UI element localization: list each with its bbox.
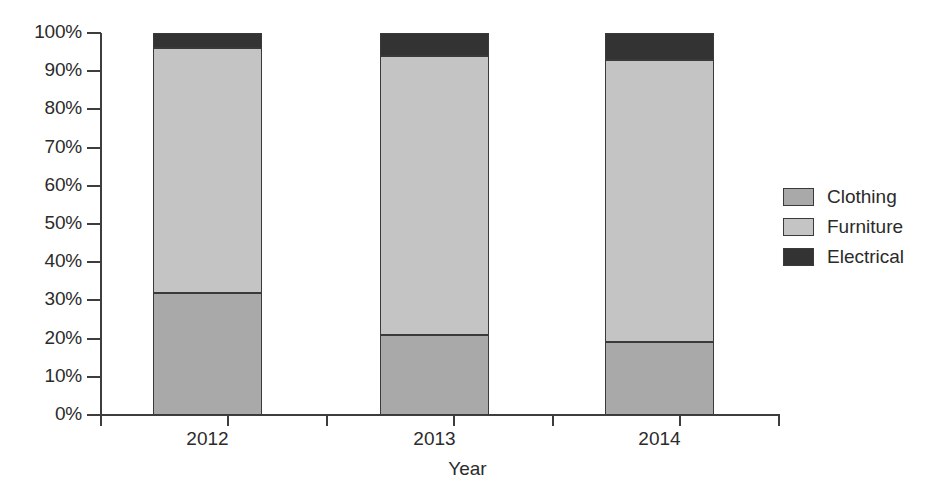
y-axis-tick (87, 338, 101, 340)
y-axis-tick (87, 185, 101, 187)
x-axis-title: Year (0, 458, 935, 480)
y-axis-tick (87, 32, 101, 34)
y-axis-tick (87, 299, 101, 301)
y-axis-tick (87, 414, 101, 416)
x-axis-category-label: 2013 (413, 428, 455, 450)
y-axis-tick-label: 0% (0, 403, 82, 425)
legend-label: Electrical (827, 246, 904, 268)
bar-segment-electrical[interactable] (153, 33, 262, 48)
y-axis-tick (87, 147, 101, 149)
bar-segment-electrical[interactable] (380, 33, 489, 56)
x-axis-tick (778, 414, 780, 426)
bar-segment-clothing[interactable] (153, 293, 262, 415)
y-axis-tick (87, 108, 101, 110)
y-axis-tick-label: 10% (0, 365, 82, 387)
legend-swatch (783, 218, 814, 236)
plot-area (100, 33, 778, 415)
bar-group (380, 33, 489, 415)
y-axis-tick (87, 261, 101, 263)
legend-item[interactable]: Clothing (783, 182, 904, 212)
x-axis-tick (552, 414, 554, 426)
y-axis-tick-label: 40% (0, 250, 82, 272)
y-axis-tick (87, 376, 101, 378)
y-axis-tick-label: 50% (0, 212, 82, 234)
bar-segment-furniture[interactable] (153, 48, 262, 292)
y-axis-tick-label: 70% (0, 136, 82, 158)
bar-segment-clothing[interactable] (380, 335, 489, 415)
legend-label: Furniture (827, 216, 903, 238)
y-axis-tick-label: 60% (0, 174, 82, 196)
x-axis-category-label: 2012 (186, 428, 228, 450)
x-axis-tick (453, 414, 455, 426)
bar-segment-clothing[interactable] (605, 342, 714, 415)
y-axis-tick (87, 223, 101, 225)
x-axis-tick (326, 414, 328, 426)
legend-item[interactable]: Electrical (783, 242, 904, 272)
y-axis-tick-label: 100% (0, 21, 82, 43)
legend: ClothingFurnitureElectrical (783, 182, 904, 272)
bar-segment-furniture[interactable] (605, 60, 714, 343)
legend-label: Clothing (827, 186, 897, 208)
legend-swatch (783, 248, 814, 266)
bar-group (153, 33, 262, 415)
bar-segment-electrical[interactable] (605, 33, 714, 60)
x-axis-tick (679, 414, 681, 426)
y-axis-tick (87, 70, 101, 72)
y-axis-tick-label: 30% (0, 288, 82, 310)
bar-segment-furniture[interactable] (380, 56, 489, 335)
legend-swatch (783, 188, 814, 206)
y-axis-tick-label: 90% (0, 59, 82, 81)
stacked-bar-chart: 100%90%80%70%60%50%40%30%20%10%0% 201220… (0, 0, 935, 493)
x-axis-tick (100, 414, 102, 426)
y-axis-tick-label: 80% (0, 97, 82, 119)
legend-item[interactable]: Furniture (783, 212, 904, 242)
x-axis-category-label: 2014 (638, 428, 680, 450)
bar-group (605, 33, 714, 415)
x-axis-tick (227, 414, 229, 426)
y-axis-tick-label: 20% (0, 327, 82, 349)
